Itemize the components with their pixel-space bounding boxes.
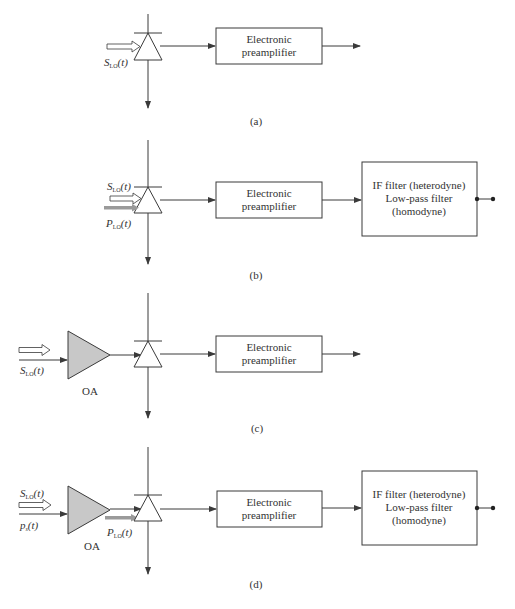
lo-power-label: PLO(t)	[105, 217, 131, 230]
preamp-line-2: preamplifier	[242, 46, 297, 58]
panel-c: SLO(t) OA Electronic preamplifier (c)	[19, 293, 360, 435]
signal-label: SLO(t)	[20, 364, 44, 377]
signal-label: SLO(t)	[104, 56, 128, 69]
receiver-diagram: SLO(t) Electronic preamplifier (a) SLO(t…	[0, 0, 515, 609]
preamp-line-1: Electronic	[246, 496, 291, 508]
lo-power-label: PLO(t)	[106, 526, 132, 539]
preamp-line-1: Electronic	[246, 187, 291, 199]
filter-line-2: Low-pass filter	[386, 192, 453, 204]
preamp-line-1: Electronic	[246, 341, 291, 353]
panel-label: (a)	[250, 115, 263, 128]
preamp-line-1: Electronic	[246, 33, 291, 45]
panel-d: SLO(t) ps(t) OA PLO(t) Electronic preamp…	[19, 447, 495, 591]
panel-label: (b)	[250, 269, 263, 282]
filter-line-1: IF filter (heterodyne)	[373, 488, 466, 501]
optical-amplifier-icon	[68, 331, 110, 379]
photodiode-icon	[134, 14, 162, 108]
signal-label: SLO(t)	[20, 487, 44, 500]
preamp-line-2: preamplifier	[242, 200, 297, 212]
preamp-line-2: preamplifier	[242, 354, 297, 366]
hollow-arrow-icon	[19, 345, 50, 356]
filter-line-2: Low-pass filter	[386, 501, 453, 513]
lo-arrow-icon	[104, 204, 139, 212]
amplifier-label: OA	[82, 385, 98, 397]
optical-amplifier-icon	[68, 486, 110, 534]
panel-b: SLO(t) PLO(t) Electronic preamplifier IF…	[104, 140, 495, 282]
hollow-arrow-icon	[110, 193, 141, 204]
amplifier-label: OA	[84, 540, 100, 552]
output-terminal-icon	[475, 197, 495, 201]
hollow-arrow-icon	[107, 41, 140, 52]
output-terminal-icon	[475, 506, 495, 510]
lo-arrow-icon	[105, 514, 138, 522]
panel-label: (d)	[250, 578, 263, 591]
hollow-arrow-icon	[19, 500, 51, 511]
filter-line-1: IF filter (heterodyne)	[373, 179, 466, 192]
filter-line-3: (homodyne)	[392, 514, 446, 527]
signal-power-label: ps(t)	[19, 519, 39, 532]
photodiode-icon	[134, 140, 162, 264]
panel-label: (c)	[251, 422, 264, 435]
filter-line-3: (homodyne)	[392, 205, 446, 218]
signal-label: SLO(t)	[107, 180, 131, 193]
panel-a: SLO(t) Electronic preamplifier (a)	[104, 14, 360, 128]
photodiode-icon	[134, 447, 162, 574]
preamp-line-2: preamplifier	[242, 509, 297, 521]
